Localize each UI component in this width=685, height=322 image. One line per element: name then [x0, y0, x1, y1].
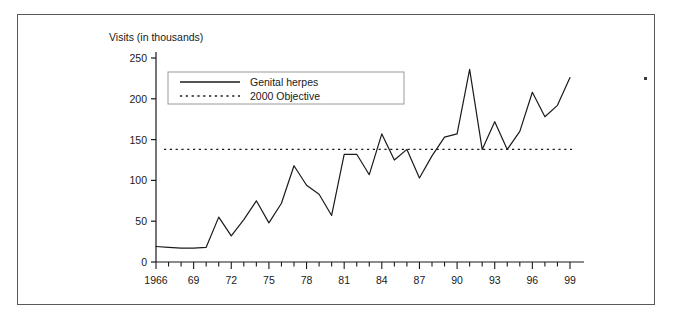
x-tick-label: 81 — [338, 274, 350, 286]
legend-label: 2000 Objective — [250, 90, 320, 102]
x-tick-label: 93 — [489, 274, 501, 286]
x-tick-label: 96 — [527, 274, 539, 286]
y-axis-label: Visits (in thousands) — [109, 31, 203, 43]
x-tick-label: 90 — [451, 274, 463, 286]
y-tick-label: 100 — [129, 174, 147, 186]
x-tick-label: 72 — [225, 274, 237, 286]
chart-svg: 0501001502002501966697275788184879093969… — [0, 0, 685, 322]
x-tick-label: 87 — [414, 274, 426, 286]
x-tick-label: 69 — [188, 274, 200, 286]
figure-container: 0501001502002501966697275788184879093969… — [0, 0, 685, 322]
x-tick-label: 84 — [376, 274, 388, 286]
y-tick-label: 0 — [141, 256, 147, 268]
stray-mark — [644, 77, 647, 80]
legend-label: Genital herpes — [250, 76, 318, 88]
y-tick-label: 50 — [135, 215, 147, 227]
y-tick-label: 250 — [129, 52, 147, 64]
x-tick-label: 78 — [301, 274, 313, 286]
y-tick-label: 150 — [129, 134, 147, 146]
x-tick-label: 1966 — [144, 274, 168, 286]
x-tick-label: 99 — [564, 274, 576, 286]
x-tick-label: 75 — [263, 274, 275, 286]
y-tick-label: 200 — [129, 93, 147, 105]
